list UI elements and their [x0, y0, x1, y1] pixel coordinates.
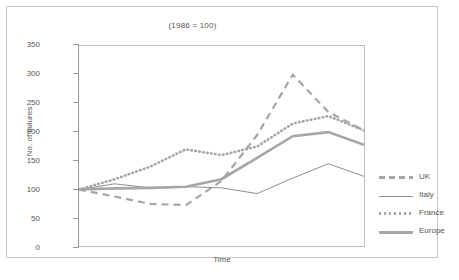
- y-tick-label-350: 350: [0, 40, 40, 49]
- y-tick-label-200: 200: [0, 127, 40, 136]
- legend-label-europe: Europe: [419, 226, 445, 235]
- y-tick-label-50: 50: [0, 214, 40, 223]
- series-line-europe: [79, 132, 364, 189]
- legend-swatch-dotted-icon: [379, 212, 413, 215]
- legend-swatch-dashed-icon: [379, 176, 413, 179]
- y-tick-0: [73, 247, 79, 248]
- legend-item-uk[interactable]: UK: [379, 169, 459, 187]
- legend-swatch-thick-line-icon: [379, 231, 413, 234]
- chart-card: (1986 = 100) No. of failures Time 350 30…: [6, 6, 438, 258]
- legend-item-italy[interactable]: Italy: [379, 187, 459, 205]
- legend-item-france[interactable]: France: [379, 205, 459, 223]
- chart-legend: UK Italy France Europe: [379, 169, 459, 241]
- y-tick-label-300: 300: [0, 69, 40, 78]
- chart-title: (1986 = 100): [0, 21, 422, 30]
- y-tick-label-0: 0: [0, 243, 40, 252]
- legend-label-italy: Italy: [419, 190, 434, 199]
- y-tick-label-150: 150: [0, 156, 40, 165]
- legend-label-france: France: [419, 208, 444, 217]
- x-axis-title: Time: [79, 255, 365, 264]
- y-tick-label-250: 250: [0, 98, 40, 107]
- plot-area: [79, 45, 365, 247]
- series-line-uk: [79, 75, 364, 205]
- legend-item-europe[interactable]: Europe: [379, 223, 459, 241]
- legend-swatch-thin-line-icon: [379, 196, 413, 197]
- series-canvas: [79, 46, 364, 247]
- legend-label-uk: UK: [419, 172, 430, 181]
- y-tick-label-100: 100: [0, 185, 40, 194]
